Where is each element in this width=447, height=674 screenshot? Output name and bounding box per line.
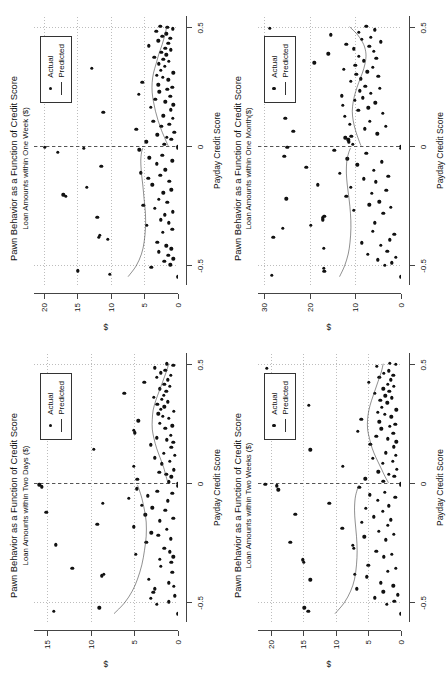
chart-panel-one-week: Pawn Behavior as a Function of Credit Sc… [0,0,224,337]
y-tick [368,631,369,636]
x-axis-line [186,16,187,285]
y-tick [310,294,311,299]
plot-area: -0.500.50102030 Payday Credit Score $ Ac… [258,16,402,285]
panel-subtitle: Loan Amounts within Two Weeks ($) [244,337,253,674]
x-tick-label: 0 [196,482,205,486]
x-axis-line [409,353,410,622]
panel-title: Pawn Behavior as a Function of Credit Sc… [232,0,243,337]
y-tick-label: 10 [331,640,340,649]
y-tick [91,631,92,636]
panel-heading: Pawn Behavior as a Function of Credit Sc… [8,0,30,337]
y-tick-label: 20 [305,303,314,312]
legend: Actual Predicted [264,373,296,440]
x-axis-line [186,353,187,622]
legend: Actual Predicted [40,373,72,440]
x-tick-label: -0.5 [196,596,205,610]
y-tick [355,294,356,299]
y-tick [336,631,337,636]
plot-area: -0.500.5051015 Payday Credit Score $ Act… [34,353,178,622]
panel-subtitle: Loan Amounts within Two Days ($) [21,337,30,674]
legend-label-actual: Actual [270,56,279,78]
y-tick-label: 5 [130,640,139,644]
plot-area: -0.500.505101520 Payday Credit Score $ A… [34,16,178,285]
chart-panel-one-month: Pawn Behavior as a Function of Credit Sc… [224,0,447,337]
legend: Actual Predicted [264,36,296,103]
x-axis-label: Payday Credit Score [435,16,445,285]
panel-heading: Pawn Behavior as a Function of Credit Sc… [232,337,254,674]
x-tick-label: 0.5 [196,22,205,33]
fit-curve-left [339,148,350,277]
dot-marker-icon [49,418,52,434]
y-tick [178,294,179,299]
line-marker-icon [61,418,62,434]
x-axis-label: Payday Credit Score [212,16,222,285]
dot-marker-icon [272,418,275,434]
x-tick [187,265,192,266]
panel-heading: Pawn Behavior as a Function of Credit Sc… [232,0,254,337]
y-tick [401,631,402,636]
x-tick [410,146,415,147]
y-tick [134,631,135,636]
y-tick-label: 10 [86,640,95,649]
x-tick-label: 0.5 [419,22,428,33]
x-tick-label: 0.5 [419,359,428,370]
fit-curve-right [349,27,365,146]
x-axis-label: Payday Credit Score [435,353,445,622]
dot-marker-icon [49,81,52,97]
x-tick [410,602,415,603]
x-tick-label: -0.5 [419,596,428,610]
figure-rotator: Pawn Behavior as a Function of Credit Sc… [0,0,447,674]
panel-title: Pawn Behavior as a Function of Credit Sc… [8,337,19,674]
legend-label-actual: Actual [46,56,55,78]
y-tick-label: 5 [364,640,373,644]
y-tick-label: 0 [173,640,182,644]
chart-panel-two-weeks: Pawn Behavior as a Function of Credit Sc… [224,337,447,674]
x-tick [410,265,415,266]
y-tick-label: 10 [106,303,115,312]
y-tick-label: 15 [299,640,308,649]
fit-curve-right [367,364,388,483]
legend-item-predicted: Predicted [280,381,291,434]
y-tick [44,294,45,299]
panel-subtitle: Loan Amounts within One Week ($) [21,0,30,337]
x-tick-label: 0 [419,482,428,486]
line-marker-icon [61,81,62,97]
legend-label-actual: Actual [46,393,55,415]
x-axis-line [409,16,410,285]
panel-title: Pawn Behavior as a Function of Credit Sc… [8,0,19,337]
panel-subtitle: Loan Amounts within One Month($) [244,0,253,337]
legend-item-predicted: Predicted [56,44,67,97]
x-tick [187,483,192,484]
line-marker-icon [285,418,286,434]
legend-item-predicted: Predicted [56,381,67,434]
y-axis-line [258,630,402,631]
fit-curve-right [152,27,168,146]
legend-label-predicted: Predicted [57,381,66,415]
y-tick-label: 15 [43,640,52,649]
y-tick-label: 15 [73,303,82,312]
dot-marker-icon [272,81,275,97]
y-tick-label: 0 [397,303,406,307]
chart-panel-two-days: Pawn Behavior as a Function of Credit Sc… [0,337,224,674]
y-tick-label: 20 [40,303,49,312]
y-axis-label: $ [327,659,332,669]
legend-item-predicted: Predicted [280,44,291,97]
legend-label-actual: Actual [270,393,279,415]
legend-label-predicted: Predicted [281,44,290,78]
x-tick [410,27,415,28]
panel-title: Pawn Behavior as a Function of Credit Sc… [232,337,243,674]
line-marker-icon [285,81,286,97]
y-tick [77,294,78,299]
x-tick [187,602,192,603]
y-tick [111,294,112,299]
y-axis-label: $ [103,659,108,669]
y-axis-label: $ [327,322,332,332]
y-axis-line [258,293,402,294]
y-tick-label: 0 [173,303,182,307]
fit-curve-left [334,485,358,614]
y-tick [47,631,48,636]
x-tick [410,483,415,484]
y-tick [271,631,272,636]
y-tick-label: 30 [260,303,269,312]
x-tick-label: 0 [196,145,205,149]
